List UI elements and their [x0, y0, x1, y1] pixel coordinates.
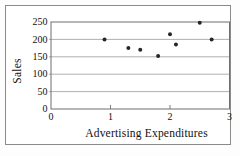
y-tick-label: 0	[43, 103, 48, 114]
plot-border	[51, 22, 230, 109]
y-tick-label: 150	[33, 51, 48, 62]
data-point	[156, 54, 160, 58]
x-tick-label: 1	[108, 111, 113, 122]
data-point	[138, 48, 142, 52]
data-point	[198, 21, 202, 25]
x-tick-label: 3	[227, 111, 232, 122]
figure-canvas: Sales Advertising Expenditures 050100150…	[0, 0, 240, 156]
y-tick-label: 200	[33, 34, 48, 45]
x-tick-label: 2	[168, 111, 173, 122]
data-point	[103, 37, 107, 41]
data-point	[174, 43, 178, 47]
scatter-plot: 0501001502002500123	[0, 0, 240, 156]
y-tick-label: 50	[38, 86, 48, 97]
y-tick-label: 100	[33, 68, 48, 79]
data-point	[168, 32, 172, 36]
y-tick-label: 250	[33, 16, 48, 27]
x-tick-label: 0	[49, 111, 54, 122]
data-point	[126, 46, 130, 50]
data-point	[210, 37, 214, 41]
